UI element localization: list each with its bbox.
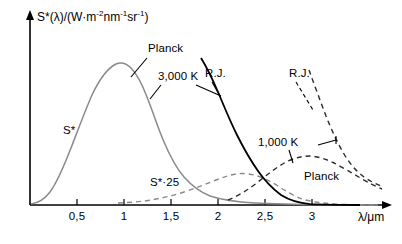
curve-rj-3000k xyxy=(201,58,360,205)
x-tick-label-2: 1,5 xyxy=(157,210,185,222)
y-axis-mid-2: sr xyxy=(127,10,137,24)
x-tick-label-0: 0,5 xyxy=(63,210,91,222)
label-temp-3000: 3,000 K xyxy=(158,70,198,82)
y-axis-label: S*(λ)/(W·m-2nm-1sr-1) xyxy=(37,10,148,24)
label-rj-1000: R.J. xyxy=(289,67,310,79)
label-solar: S* xyxy=(63,124,75,136)
label-planck-3000: Planck xyxy=(148,42,183,54)
x-tick-label-3: 2 xyxy=(207,210,229,222)
y-axis-arrowhead xyxy=(26,10,34,20)
leader-temp-3000 xyxy=(150,85,161,99)
x-tick-label-5: 3 xyxy=(301,210,323,222)
y-axis-mid-1: nm xyxy=(103,10,120,24)
leader-planck-3000 xyxy=(131,58,147,77)
spectral-radiance-chart: S*(λ)/(W·m-2nm-1sr-1) λ/μm 0,5 1 1,5 2 2… xyxy=(0,0,402,244)
leader-temp-1000-right xyxy=(318,140,336,145)
y-axis xyxy=(26,10,34,205)
curve-rj-1000k xyxy=(309,70,381,186)
chart-canvas xyxy=(0,0,402,244)
label-solar-scaled: S*·25 xyxy=(150,176,179,188)
x-tick-label-1: 1 xyxy=(113,210,135,222)
x-tick-label-4: 2,5 xyxy=(251,210,279,222)
label-rj-3000: R.J. xyxy=(205,67,226,79)
y-axis-tail: ) xyxy=(144,10,148,24)
y-axis-label-base: S*(λ)/(W·m xyxy=(37,10,96,24)
leader-rj-1000 xyxy=(296,82,313,110)
x-axis-label: λ/μm xyxy=(358,210,384,224)
curve-solar-s-star xyxy=(31,63,378,205)
label-temp-1000: 1,000 K xyxy=(258,136,298,148)
x-axis-arrowhead xyxy=(382,201,392,209)
label-planck-1000: Planck xyxy=(304,170,339,182)
